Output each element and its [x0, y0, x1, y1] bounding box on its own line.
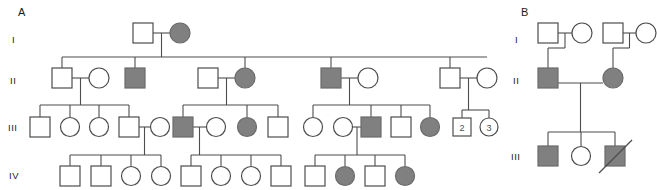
- individual-female-unaffected[interactable]: [572, 23, 592, 43]
- individual-female-unaffected[interactable]: [636, 23, 656, 43]
- individual-female-affected[interactable]: [603, 68, 623, 88]
- individual-male-unaffected[interactable]: [538, 23, 558, 43]
- individual-male-affected[interactable]: [538, 146, 558, 166]
- individual-male-affected[interactable]: [538, 68, 558, 88]
- individual-female-unaffected[interactable]: [572, 147, 591, 166]
- individual-male-unaffected[interactable]: [603, 23, 623, 43]
- pedigree-figure: A I II III IV: [0, 0, 657, 190]
- pedigree-lines-panel-b: [0, 0, 657, 190]
